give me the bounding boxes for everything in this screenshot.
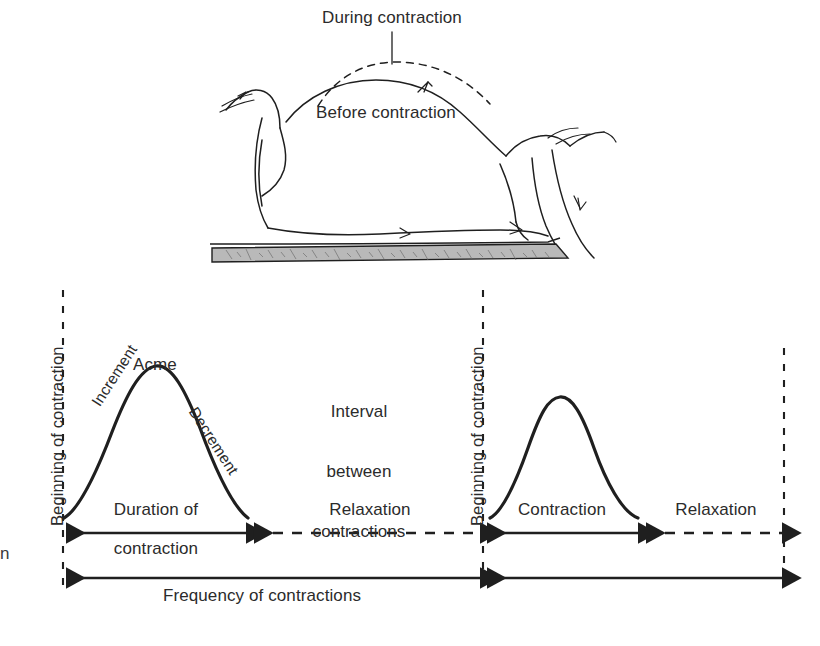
acme-label: Acme	[133, 355, 177, 375]
interval-between-contractions-label: Interval between contractions	[313, 362, 406, 583]
page-edge-artifact: n	[0, 544, 9, 564]
interval-line-2: between	[313, 462, 406, 482]
interval-line-1: Interval	[313, 402, 406, 422]
before-contraction-label: Before contraction	[316, 103, 456, 123]
during-contraction-label: During contraction	[322, 8, 462, 28]
contraction-figure: During contraction Before contraction Be…	[0, 0, 820, 646]
relaxation-left-label: Relaxation	[329, 500, 410, 520]
duration-of-contraction-label-line2: contraction	[114, 539, 198, 559]
beginning-of-contraction-label-1: Beginning of contraction	[48, 347, 67, 526]
contraction-right-label: Contraction	[518, 500, 606, 520]
relaxation-right-label: Relaxation	[675, 500, 756, 520]
duration-of-contraction-label-line1: Duration of	[114, 500, 198, 520]
beginning-of-contraction-label-2: Beginning of contraction	[468, 347, 487, 526]
interval-line-3: contractions	[313, 522, 406, 542]
frequency-of-contractions-label: Frequency of contractions	[163, 586, 361, 606]
